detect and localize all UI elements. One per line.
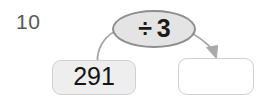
- input-value-box: 291: [52, 60, 136, 95]
- answer-input-box[interactable]: [178, 58, 254, 95]
- worksheet-problem-canvas: 10 ÷ 3 291: [0, 0, 266, 107]
- connector-input-to-operation: [97, 32, 114, 62]
- input-value: 291: [73, 64, 115, 89]
- answer-value[interactable]: [216, 76, 217, 77]
- operation-label: ÷ 3: [138, 16, 170, 41]
- arrow-down-right-icon: [207, 46, 218, 59]
- operation-bubble: ÷ 3: [112, 10, 196, 48]
